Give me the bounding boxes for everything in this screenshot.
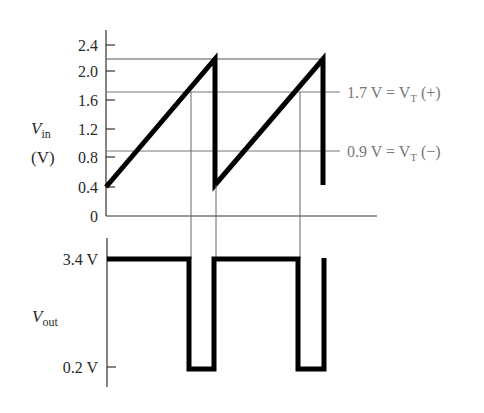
schmitt-trigger-diagram: 2.4 2.0 1.6 1.2 0.8 0.4 0 Vin (V) 1.7 V … xyxy=(0,0,484,413)
tick-label-0: 0 xyxy=(90,208,98,225)
vin-sawtooth-waveform xyxy=(106,59,323,187)
vout-square-waveform xyxy=(107,258,324,369)
vout-axis-label: Vout xyxy=(32,307,58,329)
tick-label-0.8: 0.8 xyxy=(78,149,98,166)
tick-label-0.4: 0.4 xyxy=(78,179,98,196)
vin-plot: 2.4 2.0 1.6 1.2 0.8 0.4 0 Vin (V) 1.7 V … xyxy=(31,30,441,225)
vin-unit-label: (V) xyxy=(31,148,55,167)
tick-label-2.0: 2.0 xyxy=(78,63,98,80)
tick-label-1.2: 1.2 xyxy=(78,121,98,138)
tick-label-0.2v: 0.2 V xyxy=(63,359,99,376)
tick-label-3.4v: 3.4 V xyxy=(63,251,99,268)
vout-plot: 3.4 V 0.2 V Vout xyxy=(32,238,324,387)
vin-axis-label: Vin xyxy=(31,119,51,141)
upper-threshold-label: 1.7 V = VT (+) xyxy=(347,84,441,104)
tick-label-1.6: 1.6 xyxy=(78,92,98,109)
tick-label-2.4: 2.4 xyxy=(78,37,98,54)
vin-ticks xyxy=(106,45,115,187)
lower-threshold-label: 0.9 V = VT (−) xyxy=(347,143,441,163)
transition-guides xyxy=(191,92,300,259)
